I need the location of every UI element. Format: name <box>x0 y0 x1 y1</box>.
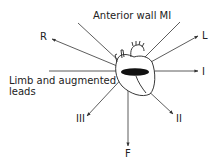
lead-label-F: F <box>125 148 131 159</box>
lead-label-I: I <box>202 66 205 77</box>
lead-label-III: III <box>76 113 85 124</box>
lead-label-R: R <box>40 31 47 42</box>
lead-label-II: II <box>176 113 182 124</box>
lead-label-L: L <box>202 30 208 41</box>
infarct-region <box>121 68 149 76</box>
caption-line-1: Limb and augmented <box>9 75 119 86</box>
title-pointer-left <box>78 23 120 62</box>
lead-R-arrow <box>52 39 122 68</box>
caption-line-2: leads <box>9 86 119 97</box>
diagram-title: Anterior wall MI <box>93 10 171 21</box>
title-pointer-right <box>142 22 180 60</box>
